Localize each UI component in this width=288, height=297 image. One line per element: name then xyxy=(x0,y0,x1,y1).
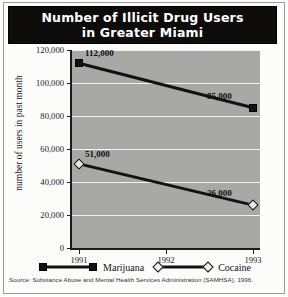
plot-region: number of users in past month 020,00040,… xyxy=(0,46,288,251)
y-axis-tick-label: 20,000 xyxy=(40,210,64,220)
chart-legend: MarijuanaCocaine xyxy=(0,259,288,275)
legend-marker-open-diamond-icon xyxy=(152,261,163,272)
series-line-marijuana xyxy=(79,63,253,108)
data-point-label: 26,000 xyxy=(207,188,232,198)
chart-title-banner: Number of Illicit Drug Users in Greater … xyxy=(8,6,277,44)
data-point-marker-marijuana xyxy=(75,59,83,67)
legend-line xyxy=(41,266,95,269)
data-point-label: 85,000 xyxy=(207,91,232,101)
data-point-label: 112,000 xyxy=(85,48,114,58)
x-axis-tick-mark xyxy=(253,250,254,254)
legend-item-cocaine[interactable]: Cocaine xyxy=(152,262,251,273)
legend-marker-filled-square-icon xyxy=(89,263,97,271)
chart-figure: Number of Illicit Drug Users in Greater … xyxy=(0,0,288,297)
y-axis-title: number of users in past month xyxy=(14,48,24,218)
x-axis-tick-mark xyxy=(79,250,80,254)
x-axis-tick-mark xyxy=(166,250,167,254)
series-line-cocaine xyxy=(79,164,253,205)
chart-title-line-1: Number of Illicit Drug Users xyxy=(41,10,243,25)
plot-area: 112,00085,00051,00026,000 xyxy=(70,50,260,250)
source-note: Source: Substance Abuse and Mental Healt… xyxy=(9,276,253,283)
chart-title-line-2: in Greater Miami xyxy=(82,25,204,40)
y-axis-tick-labels: 020,00040,00060,00080,000100,000120,000 xyxy=(24,46,68,249)
legend-marker-open-diamond-icon xyxy=(202,261,213,272)
y-axis-tick-label: 100,000 xyxy=(36,78,64,88)
y-axis-tick-label: 0 xyxy=(60,243,64,253)
y-axis-tick-label: 40,000 xyxy=(40,177,64,187)
legend-item-marijuana[interactable]: Marijuana xyxy=(37,262,144,273)
legend-marker-filled-square-icon xyxy=(39,263,47,271)
y-axis-tick-label: 120,000 xyxy=(36,45,64,55)
y-axis-tick-label: 80,000 xyxy=(40,111,64,121)
y-axis-tick-label: 60,000 xyxy=(40,144,64,154)
data-point-marker-marijuana xyxy=(249,104,257,112)
legend-label: Marijuana xyxy=(103,262,144,273)
legend-label: Cocaine xyxy=(218,262,251,273)
legend-swatch-filled-square-icon xyxy=(37,262,99,273)
legend-swatch-open-diamond-icon xyxy=(152,262,214,273)
data-point-label: 51,000 xyxy=(85,149,110,159)
